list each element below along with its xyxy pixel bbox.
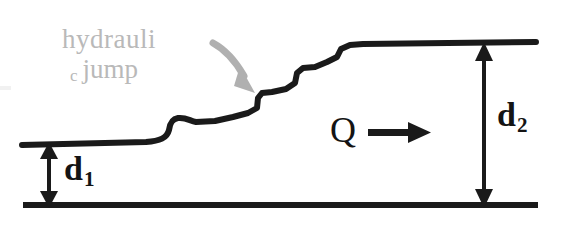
d2-depth-subscript: 2 — [517, 113, 528, 137]
hydraulic-jump-diagram: hydrauli cjump d1 d2 Q — [0, 0, 563, 231]
hydraulic-jump-label-line1: hydrauli — [62, 26, 156, 53]
hydraulic-jump-label-jump: jump — [83, 54, 139, 84]
discharge-label: Q — [330, 112, 356, 148]
flow-direction-arrow — [368, 122, 431, 143]
hydraulic-jump-label: hydrauli cjump — [62, 26, 156, 84]
d1-dimension-arrow — [40, 142, 58, 208]
d2-dimension-arrow — [475, 42, 493, 208]
d1-depth-label: d1 — [64, 152, 94, 190]
hydraulic-jump-label-line2: cjump — [62, 56, 156, 84]
d2-depth-symbol: d — [497, 96, 516, 133]
channel-bed-line — [23, 202, 538, 208]
scan-artifact-mark — [0, 86, 11, 90]
d1-depth-symbol: d — [64, 150, 83, 187]
hydraulic-jump-label-c: c — [70, 66, 78, 85]
d1-depth-subscript: 1 — [84, 167, 95, 191]
d2-depth-label: d2 — [497, 98, 527, 136]
